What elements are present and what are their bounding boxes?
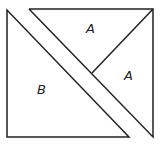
dissected-square-diagram: A A B: [0, 0, 164, 150]
label-A-right: A: [123, 68, 133, 83]
divider-A-pieces: [92, 9, 153, 73]
label-B: B: [37, 82, 46, 97]
triangle-B: [7, 10, 129, 137]
label-A-top: A: [85, 21, 95, 36]
